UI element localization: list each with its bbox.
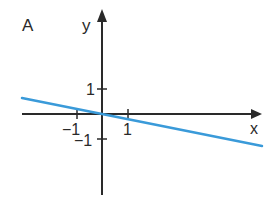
y-tick-label-minus-1: −1 (74, 132, 92, 149)
y-axis-label: y (82, 16, 91, 35)
panel-label: A (22, 16, 34, 35)
coordinate-plot: A x y −1 1 1 −1 (0, 0, 271, 203)
x-axis-label: x (250, 120, 258, 137)
x-tick-label-1: 1 (123, 121, 132, 138)
function-line (22, 98, 262, 146)
x-axis-arrow-icon (251, 109, 262, 119)
y-tick-label-1: 1 (86, 81, 95, 98)
y-axis-arrow-icon (97, 9, 107, 22)
